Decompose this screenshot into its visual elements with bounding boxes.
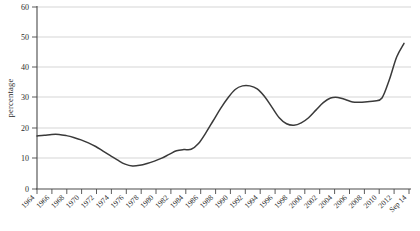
x-tick-label-1970: 1970	[64, 193, 81, 210]
y-tick-label-10: 10	[21, 154, 29, 163]
y-tick-label-50: 50	[21, 33, 29, 42]
y-tick-labels: 60 50 40 30 20 10 0	[21, 3, 29, 194]
x-tick-label-2004: 2004	[317, 193, 334, 210]
series-line-percentage	[37, 43, 404, 166]
x-tick-label-1968: 1968	[49, 193, 66, 210]
x-tick-label-2008: 2008	[347, 193, 364, 210]
gridlines	[37, 7, 411, 158]
x-tick-label-1998: 1998	[272, 193, 289, 210]
y-tick-label-30: 30	[21, 93, 29, 102]
x-tick-label-1966: 1966	[34, 193, 51, 210]
y-axis-label: percentage	[5, 79, 15, 118]
x-tick-label-1986: 1986	[183, 193, 200, 210]
x-tick-label-1996: 1996	[257, 193, 274, 210]
x-tick-label-2006: 2006	[332, 193, 349, 210]
x-tick-label-2010: 2010	[362, 193, 379, 210]
y-tick-label-20: 20	[21, 124, 29, 133]
x-tick-label-1972: 1972	[79, 193, 96, 210]
x-tick-label-1978: 1978	[124, 193, 141, 210]
y-tick-label-0: 0	[25, 185, 29, 194]
x-tick-label-1992: 1992	[228, 193, 245, 210]
x-tick-label-1994: 1994	[243, 193, 260, 210]
y-tick-label-60: 60	[21, 3, 29, 12]
x-tick-label-1964: 1964	[19, 193, 36, 210]
x-tick-label-2000: 2000	[287, 193, 304, 210]
x-tick-labels: 1964196619681970197219741976197819801982…	[19, 193, 408, 214]
x-tick-label-1988: 1988	[198, 193, 215, 210]
chart-canvas: 60 50 40 30 20 10 0 percentage 196419661…	[0, 0, 420, 231]
x-tick-label-1974: 1974	[94, 193, 111, 210]
y-tick-label-40: 40	[21, 63, 29, 72]
x-tick-label-1980: 1980	[138, 193, 155, 210]
x-tick-label-1984: 1984	[168, 193, 185, 210]
x-tick-label-1982: 1982	[153, 193, 170, 210]
x-tick-label-1976: 1976	[109, 193, 126, 210]
x-tick-label-2002: 2002	[302, 193, 319, 210]
y-tick-marks	[32, 7, 37, 189]
x-tick-label-1990: 1990	[213, 193, 230, 210]
line-chart: 60 50 40 30 20 10 0 percentage 196419661…	[0, 0, 420, 231]
x-tick-label-sep-14: Sep 14	[387, 193, 408, 214]
